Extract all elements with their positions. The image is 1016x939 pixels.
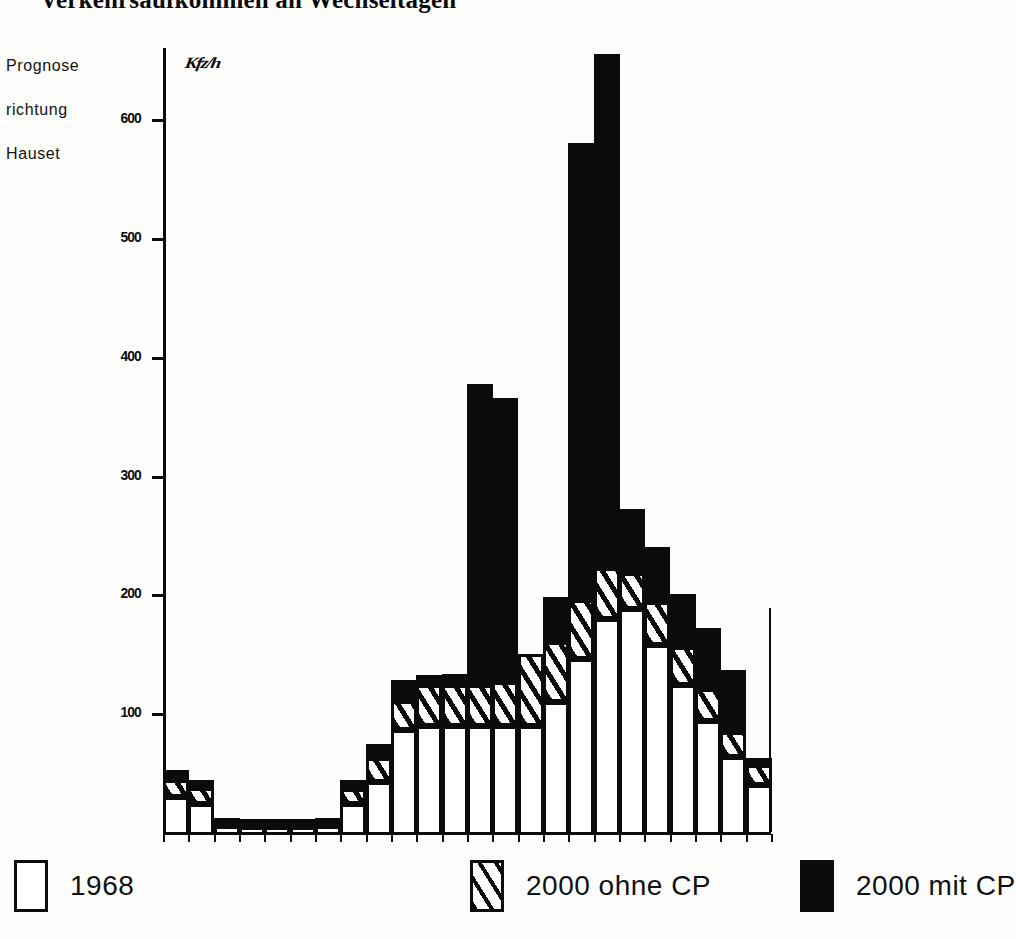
- chart-plot-area: Kfz/h 100200300400500600: [163, 48, 771, 835]
- bar-segment-1968: [543, 702, 569, 832]
- bar-segment-2000-ohne-cp: [492, 682, 518, 725]
- y-axis-tick: [152, 713, 164, 716]
- bar-column: [163, 770, 189, 832]
- bar-segment-2000-ohne-cp: [188, 788, 214, 804]
- x-axis-tick: [746, 834, 748, 842]
- y-axis-tick-label: 500: [87, 228, 140, 245]
- y-axis-tick: [152, 476, 164, 479]
- x-axis-tick: [568, 834, 570, 842]
- bar-segment-1968: [746, 785, 772, 832]
- white-rect-icon: [14, 860, 48, 912]
- bar-column: [518, 670, 544, 832]
- y-axis-tick-label: 600: [87, 109, 140, 126]
- legend-item[interactable]: 2000 mit CP: [800, 860, 1016, 912]
- bar-column: [315, 818, 341, 832]
- y-axis-line: [163, 48, 166, 835]
- bar-column: [366, 744, 392, 832]
- y-axis-tick: [152, 119, 164, 122]
- bar-column: [264, 819, 290, 832]
- x-axis-tick: [264, 834, 266, 842]
- bar-segment-2000-ohne-cp: [543, 642, 569, 702]
- bar-column: [746, 758, 772, 832]
- y-axis-tick-label: 400: [87, 347, 140, 364]
- bar-segment-2000-ohne-cp: [695, 689, 721, 721]
- bar-segment-1968: [214, 826, 240, 833]
- bar-segment-2000-ohne-cp: [391, 701, 417, 730]
- x-axis-tick: [188, 834, 190, 842]
- bar-segment-1968: [695, 721, 721, 832]
- chart-legend: 19682000 ohne CP2000 mit CP: [0, 860, 949, 930]
- bar-segment-1968: [442, 726, 468, 832]
- bar-segment-1968: [188, 804, 214, 832]
- y-axis-tick: [152, 238, 164, 241]
- bar-column: [442, 674, 468, 832]
- x-axis-tick: [416, 834, 418, 842]
- bar-segment-2000-ohne-cp: [442, 685, 468, 726]
- y-axis-tick: [152, 357, 164, 360]
- x-axis-tick: [163, 834, 165, 842]
- bar-column: [695, 628, 721, 832]
- bar-segment-2000-ohne-cp: [568, 600, 594, 659]
- y-axis-tick: [152, 594, 164, 597]
- bar-column: [467, 384, 493, 832]
- legend-item[interactable]: 2000 ohne CP: [470, 860, 711, 912]
- page-title: Verkehrsaufkommen an Wechseltagen: [40, 0, 456, 14]
- caption-line-hauset: Hauset: [6, 132, 126, 176]
- x-axis-tick: [239, 834, 241, 842]
- bar-column: [543, 597, 569, 832]
- hatched-rect-icon: [470, 860, 504, 912]
- bar-column: [720, 670, 746, 832]
- bar-column: [239, 819, 265, 832]
- bar-column: [290, 819, 316, 832]
- bar-segment-2000-ohne-cp: [670, 647, 696, 686]
- solid-black-rect-icon: [800, 860, 834, 912]
- x-axis-tick: [720, 834, 722, 842]
- x-axis-tick: [492, 834, 494, 842]
- bar-segment-2000-ohne-cp: [619, 573, 645, 609]
- legend-item-label: 1968: [70, 870, 134, 902]
- bar-segment-1968: [366, 782, 392, 832]
- bar-segment-2000-ohne-cp: [518, 654, 544, 726]
- y-axis-tick-label: 100: [87, 703, 140, 720]
- bar-segment-1968: [315, 826, 341, 833]
- bar-column: [670, 594, 696, 832]
- x-axis-tick: [695, 834, 697, 842]
- bar-segment-1968: [644, 645, 670, 832]
- y-axis-tick-label: 200: [87, 584, 140, 601]
- bar-segment-2000-ohne-cp: [746, 765, 772, 785]
- bar-segment-1968: [239, 827, 265, 832]
- bar-segment-1968: [594, 619, 620, 832]
- x-axis-tick: [670, 834, 672, 842]
- x-axis-tick: [442, 834, 444, 842]
- bar-segment-2000-ohne-cp: [594, 568, 620, 619]
- y-axis-tick-label: 300: [87, 466, 140, 483]
- bar-segment-2000-ohne-cp: [340, 789, 366, 804]
- x-axis-tick: [290, 834, 292, 842]
- bar-column: [644, 547, 670, 832]
- legend-item-label: 2000 mit CP: [856, 870, 1016, 902]
- legend-item[interactable]: 1968: [14, 860, 134, 912]
- x-axis-tick: [619, 834, 621, 842]
- bar-column: [594, 54, 620, 832]
- bar-column: [619, 509, 645, 832]
- bar-segment-1968: [416, 726, 442, 832]
- bar-column: [188, 780, 214, 832]
- bar-segment-1968: [720, 757, 746, 832]
- x-axis-tick: [315, 834, 317, 842]
- bar-segment-1968: [264, 827, 290, 832]
- x-axis-tick: [518, 834, 520, 842]
- bar-column: [391, 680, 417, 832]
- x-axis-tick: [644, 834, 646, 842]
- bar-segment-1968: [670, 685, 696, 832]
- x-axis-tick: [214, 834, 216, 842]
- bar-segment-1968: [619, 609, 645, 832]
- bar-segment-1968: [290, 827, 316, 832]
- bar-segment-2000-ohne-cp: [366, 758, 392, 781]
- bar-column: [340, 780, 366, 832]
- bar-column: [568, 143, 594, 832]
- bar-column: [214, 818, 240, 832]
- bar-segment-1968: [340, 804, 366, 832]
- bar-segment-2000-ohne-cp: [720, 732, 746, 756]
- bar-segment-2000-ohne-cp: [163, 780, 189, 797]
- bar-segment-1968: [518, 726, 544, 832]
